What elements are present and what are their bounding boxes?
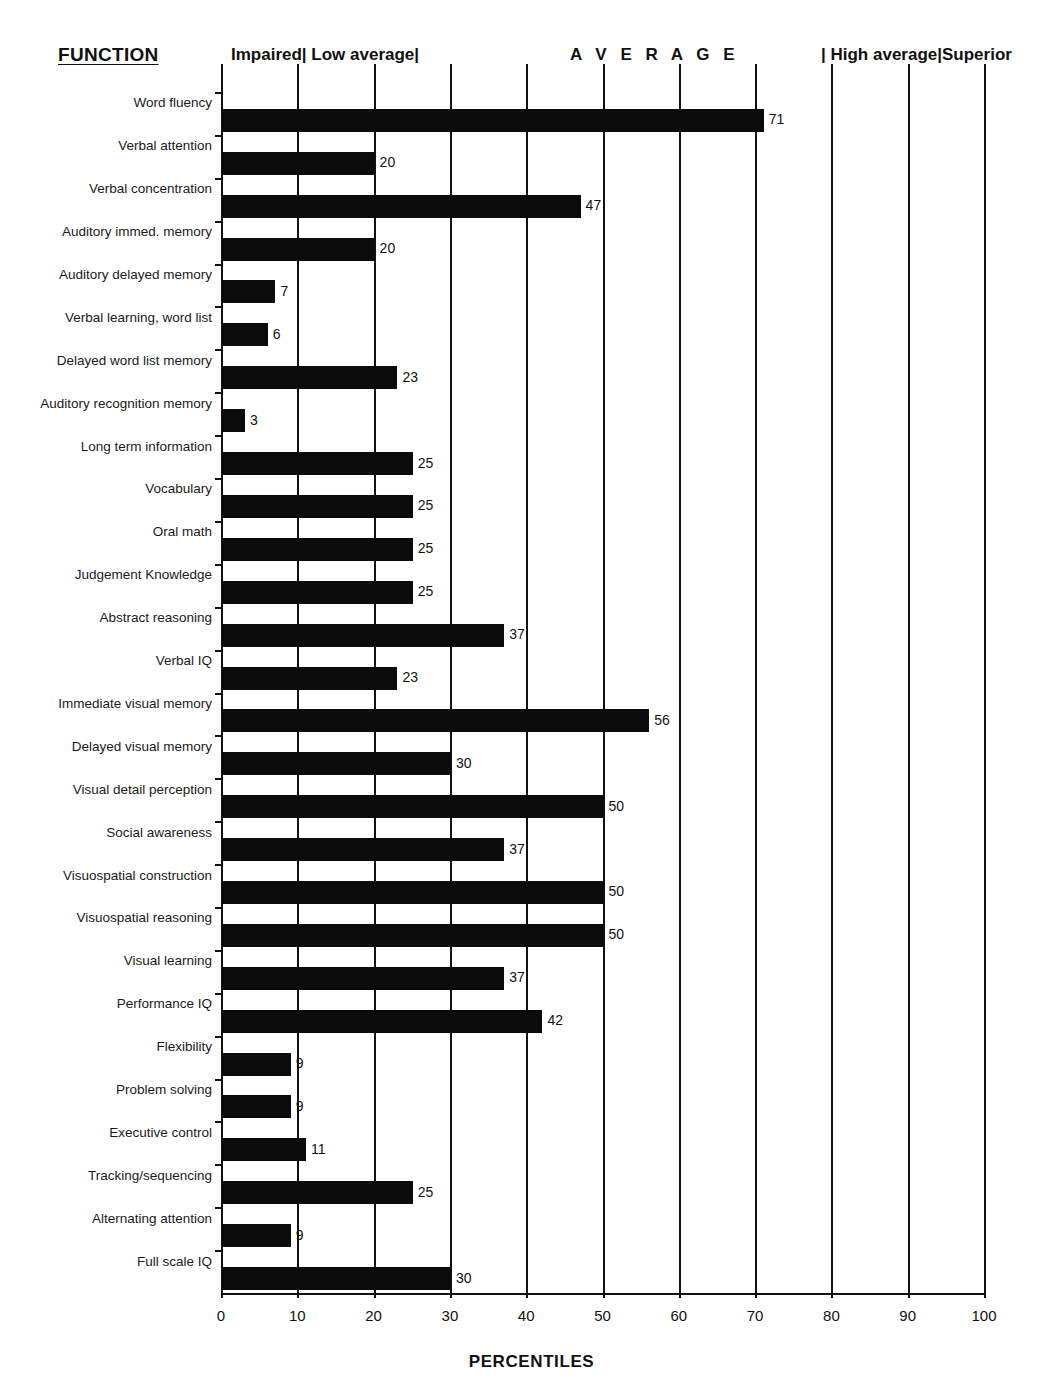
- gridline-60: [679, 92, 681, 1293]
- bar: [222, 538, 413, 561]
- x-tick-label-20: 20: [354, 1307, 394, 1324]
- bar-value-label: 56: [654, 712, 670, 728]
- y-tick-16: [215, 778, 223, 780]
- y-tick-3: [215, 221, 223, 223]
- bar: [222, 881, 604, 904]
- bar-value-label: 9: [296, 1227, 304, 1243]
- y-tick-27: [215, 1250, 223, 1252]
- bar-value-label: 30: [456, 755, 472, 771]
- y-tick-2: [215, 178, 223, 180]
- y-tick-0: [215, 92, 223, 94]
- bar: [222, 838, 504, 861]
- gridline-80: [831, 92, 833, 1293]
- bar: [222, 795, 604, 818]
- gridline-top-stub-80: [831, 64, 833, 92]
- y-tick-15: [215, 735, 223, 737]
- x-tick-label-0: 0: [201, 1307, 241, 1324]
- y-tick-11: [215, 564, 223, 566]
- y-tick-4: [215, 264, 223, 266]
- bar-value-label: 37: [509, 969, 525, 985]
- bar-value-label: 23: [402, 369, 418, 385]
- x-tick-label-100: 100: [964, 1307, 1004, 1324]
- bar-value-label: 9: [296, 1098, 304, 1114]
- x-tick-60: [679, 1288, 681, 1298]
- gridline-top-stub-90: [908, 64, 910, 92]
- bar-value-label: 25: [418, 583, 434, 599]
- gridline-90: [908, 92, 910, 1293]
- band-label-high-average-superior: | High average|Superior: [821, 45, 1012, 65]
- bar: [222, 495, 413, 518]
- bar-value-label: 25: [418, 540, 434, 556]
- category-label: Visual detail perception: [0, 782, 212, 797]
- bar-value-label: 37: [509, 841, 525, 857]
- bar: [222, 323, 268, 346]
- bar-value-label: 50: [609, 926, 625, 942]
- gridline-100: [984, 92, 986, 1293]
- y-tick-12: [215, 607, 223, 609]
- bar: [222, 1224, 291, 1247]
- category-label: Verbal IQ: [0, 653, 212, 668]
- bar-value-label: 47: [586, 197, 602, 213]
- gridline-20: [374, 92, 376, 1293]
- bar-value-label: 20: [380, 240, 396, 256]
- bar-value-label: 25: [418, 1184, 434, 1200]
- y-tick-23: [215, 1079, 223, 1081]
- bar-value-label: 7: [280, 283, 288, 299]
- y-tick-7: [215, 392, 223, 394]
- x-tick-70: [755, 1288, 757, 1298]
- x-tick-90: [908, 1288, 910, 1298]
- category-label: Verbal attention: [0, 138, 212, 153]
- x-tick-label-10: 10: [277, 1307, 317, 1324]
- bar: [222, 709, 649, 732]
- gridline-top-stub-100: [984, 64, 986, 92]
- bar: [222, 452, 413, 475]
- y-tick-17: [215, 821, 223, 823]
- band-label-impaired-low-average: Impaired| Low average|: [231, 45, 419, 65]
- x-tick-label-50: 50: [583, 1307, 623, 1324]
- y-tick-21: [215, 993, 223, 995]
- x-axis-title: PERCENTILES: [0, 1352, 1063, 1372]
- bar-value-label: 20: [380, 154, 396, 170]
- bar: [222, 1095, 291, 1118]
- bar-value-label: 50: [609, 798, 625, 814]
- category-label: Full scale IQ: [0, 1254, 212, 1269]
- y-tick-14: [215, 693, 223, 695]
- y-tick-6: [215, 349, 223, 351]
- bar-value-label: 25: [418, 455, 434, 471]
- x-tick-label-70: 70: [735, 1307, 775, 1324]
- bar-value-label: 23: [402, 669, 418, 685]
- category-label: Delayed word list memory: [0, 353, 212, 368]
- bar-value-label: 11: [311, 1141, 326, 1157]
- category-label: Abstract reasoning: [0, 610, 212, 625]
- category-label: Tracking/sequencing: [0, 1168, 212, 1183]
- bar: [222, 967, 504, 990]
- percentile-bar-chart: FUNCTION Impaired| Low average| A V E R …: [0, 0, 1063, 1387]
- plot-area: 7120472076233252525253723563050375050374…: [221, 92, 984, 1293]
- band-label-average: A V E R A G E: [570, 45, 739, 65]
- category-label: Visuospatial construction: [0, 868, 212, 883]
- category-label: Auditory recognition memory: [0, 396, 212, 411]
- bar: [222, 1053, 291, 1076]
- y-tick-26: [215, 1207, 223, 1209]
- gridline-40: [526, 92, 528, 1293]
- x-tick-100: [984, 1288, 986, 1298]
- y-tick-13: [215, 650, 223, 652]
- gridline-top-stub-0: [221, 64, 223, 92]
- category-label: Auditory immed. memory: [0, 224, 212, 239]
- bar-value-label: 71: [769, 111, 785, 127]
- bar-value-label: 3: [250, 412, 258, 428]
- category-label: Alternating attention: [0, 1211, 212, 1226]
- bar: [222, 1181, 413, 1204]
- bar: [222, 1267, 451, 1290]
- y-tick-10: [215, 521, 223, 523]
- gridline-top-stub-10: [297, 64, 299, 92]
- gridline-top-stub-50: [603, 64, 605, 92]
- x-tick-label-60: 60: [659, 1307, 699, 1324]
- bar: [222, 238, 375, 261]
- category-label: Long term information: [0, 439, 212, 454]
- category-label: Problem solving: [0, 1082, 212, 1097]
- category-label: Executive control: [0, 1125, 212, 1140]
- bar-value-label: 50: [609, 883, 625, 899]
- y-tick-24: [215, 1121, 223, 1123]
- bar-value-label: 37: [509, 626, 525, 642]
